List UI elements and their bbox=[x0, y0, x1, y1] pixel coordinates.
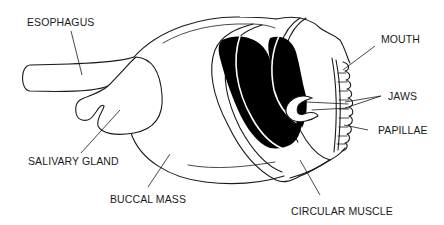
leader-jaws-2 bbox=[345, 96, 381, 108]
label-papillae: PAPILLAE bbox=[378, 124, 428, 136]
leader-papillae bbox=[344, 125, 368, 130]
cavity-dark-shape bbox=[219, 34, 318, 150]
label-circular-muscle: CIRCULAR MUSCLE bbox=[291, 205, 393, 217]
label-esophagus: ESOPHAGUS bbox=[27, 16, 94, 28]
buccal-mass-diagram: ESOPHAGUS SALIVARY GLAND BUCCAL MASS MOU… bbox=[0, 0, 444, 225]
label-jaws: JAWS bbox=[388, 90, 417, 102]
salivary-gland-shape bbox=[76, 57, 162, 134]
label-salivary-gland: SALIVARY GLAND bbox=[28, 155, 119, 167]
leader-circular-muscle bbox=[300, 160, 320, 195]
label-mouth: MOUTH bbox=[381, 33, 420, 45]
label-buccal-mass: BUCCAL MASS bbox=[110, 193, 186, 205]
leader-esophagus bbox=[71, 31, 82, 75]
mouth-papillae-shape bbox=[306, 58, 353, 152]
